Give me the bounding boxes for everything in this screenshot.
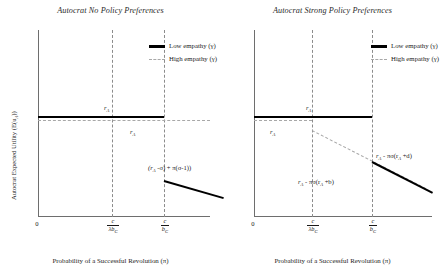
x-tick-zero-left: 0 — [30, 220, 44, 227]
x-axis-label-left: Probability of a Successful Revolution (… — [0, 257, 221, 264]
panel-autocrat-strong-policy-preferences: Autocrat Strong Policy Preferences rA rA… — [222, 0, 443, 270]
series-low-empathy-flat-left — [38, 116, 164, 118]
series-high-empathy-flat-right — [254, 120, 312, 121]
label-ra-lower-left: rA — [130, 128, 135, 137]
panel-title-left: Autocrat No Policy Preferences — [0, 6, 221, 15]
x-axis-line-left — [38, 216, 210, 217]
legend-item-high-empathy-left: High empathy (γ) — [149, 53, 217, 66]
legend-solid-line-icon-left — [149, 45, 165, 47]
y-axis-label-left: Autocrat Expected Utility (E(uA)) — [10, 50, 19, 200]
legend-item-high-empathy-right: High empathy (γ) — [371, 53, 439, 66]
legend-dashed-line-icon-right — [371, 59, 387, 60]
annotation-decline-equation-left: (rA -σ) + π(σ-1)) — [148, 164, 191, 173]
legend-right: Low empathy (γ) High empathy (γ) — [371, 40, 439, 66]
annotation-equation-b-right: rA - πσ(rA +b) — [298, 178, 334, 187]
x-tick-bc-threshold-right: cbC — [360, 218, 386, 235]
x-tick-lambda-threshold-right: cλbC — [300, 218, 326, 235]
label-ra-upper-right: rA — [306, 104, 311, 113]
figure-two-panel-chart: Autocrat No Policy Preferences Autocrat … — [0, 0, 443, 270]
y-axis-label-subscript-left: A — [14, 116, 19, 119]
legend-label-low-empathy-right: Low empathy (γ) — [391, 40, 438, 53]
x-axis-label-right: Probability of a Successful Revolution (… — [222, 257, 443, 264]
legend-item-low-empathy-right: Low empathy (γ) — [371, 40, 439, 53]
label-ra-lower-right: rA — [270, 128, 275, 137]
x-axis-line-right — [254, 216, 432, 217]
legend-label-high-empathy-right: High empathy (γ) — [391, 53, 439, 66]
legend-label-low-empathy-left: Low empathy (γ) — [169, 40, 216, 53]
series-low-empathy-decline-right — [372, 161, 433, 194]
legend-dashed-line-icon-left — [149, 59, 165, 60]
annotation-equation-d-right: rA - πσ(rA +d) — [376, 152, 412, 161]
x-tick-zero-right: 0 — [246, 220, 260, 227]
legend-solid-line-icon-right — [371, 45, 387, 47]
series-high-empathy-flat-left — [38, 120, 210, 121]
y-axis-line-left — [38, 30, 39, 217]
gridline-threshold-lambda-right — [312, 30, 313, 217]
legend-left: Low empathy (γ) High empathy (γ) — [149, 40, 217, 66]
x-tick-lambda-threshold-left: cλbC — [100, 218, 126, 235]
x-tick-bc-threshold-left: cbC — [152, 218, 178, 235]
gridline-threshold-lambda-left — [112, 30, 113, 217]
series-low-empathy-decline-left — [164, 180, 224, 199]
legend-item-low-empathy-left: Low empathy (γ) — [149, 40, 217, 53]
y-axis-line-right — [254, 30, 255, 217]
panel-title-right: Autocrat Strong Policy Preferences — [222, 6, 443, 15]
legend-label-high-empathy-left: High empathy (γ) — [169, 53, 217, 66]
panel-autocrat-no-policy-preferences: Autocrat No Policy Preferences Autocrat … — [0, 0, 221, 270]
label-ra-upper-left: rA — [104, 104, 109, 113]
series-low-empathy-flat-right — [254, 116, 372, 118]
